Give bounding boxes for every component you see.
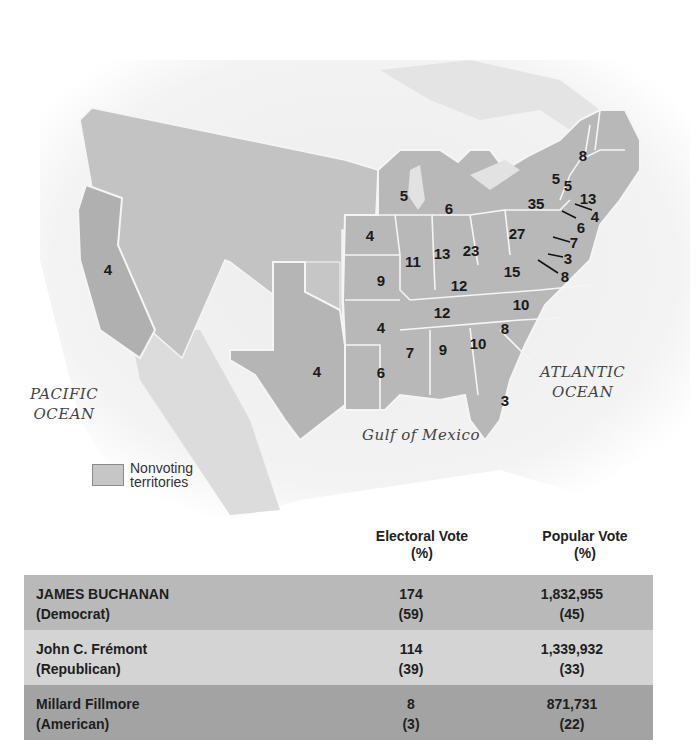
popular-vote-cell: 1,339,932 (33) — [512, 639, 632, 679]
svg-text:9: 9 — [377, 272, 385, 289]
svg-text:8: 8 — [501, 320, 509, 337]
svg-text:27: 27 — [509, 225, 526, 242]
svg-text:5: 5 — [400, 187, 408, 204]
svg-text:35: 35 — [528, 195, 545, 212]
svg-text:11: 11 — [405, 253, 421, 270]
svg-text:5: 5 — [552, 170, 560, 187]
electoral-vote-cell: 114 (39) — [351, 639, 471, 679]
svg-text:4: 4 — [377, 319, 386, 336]
candidate-name: John C. Frémont (Republican) — [36, 639, 147, 679]
svg-text:6: 6 — [445, 200, 453, 217]
electoral-vote-cell: 174 (59) — [351, 584, 471, 624]
candidate-name: Millard Fillmore (American) — [36, 694, 139, 734]
popular-vote-cell: 871,731 (22) — [512, 694, 632, 734]
svg-text:12: 12 — [451, 277, 468, 294]
map-legend: Nonvoting territories — [92, 461, 193, 489]
svg-text:10: 10 — [470, 335, 487, 352]
svg-text:12: 12 — [434, 304, 451, 321]
popular-vote-cell: 1,832,955 (45) — [512, 584, 632, 624]
table-row-fillmore: Millard Fillmore (American) 8 (3) 871,73… — [24, 685, 653, 740]
atlantic-ocean-label: ATLANTIC OCEAN — [540, 362, 625, 402]
svg-text:15: 15 — [504, 263, 521, 280]
svg-text:6: 6 — [377, 364, 385, 381]
svg-text:7: 7 — [406, 344, 414, 361]
electoral-vote-cell: 8 (3) — [351, 694, 471, 734]
svg-text:7: 7 — [570, 234, 578, 251]
nonvoting-swatch — [92, 464, 124, 486]
svg-text:8: 8 — [561, 268, 569, 285]
svg-text:5: 5 — [564, 177, 572, 194]
table-row-buchanan: JAMES BUCHANAN (Democrat) 174 (59) 1,832… — [24, 575, 653, 630]
svg-text:9: 9 — [439, 341, 447, 358]
svg-text:23: 23 — [463, 242, 480, 259]
svg-text:8: 8 — [579, 147, 587, 164]
map-graphic: 4 4 4 9 4 6 5 6 11 13 23 12 12 7 9 10 8 … — [0, 0, 698, 520]
svg-text:13: 13 — [580, 190, 597, 207]
table-row-fremont: John C. Frémont (Republican) 114 (39) 1,… — [24, 630, 653, 685]
svg-text:3: 3 — [564, 250, 572, 267]
svg-text:3: 3 — [501, 392, 509, 409]
legend-label: Nonvoting territories — [130, 461, 193, 489]
svg-text:13: 13 — [434, 245, 451, 262]
popular-vote-header: Popular Vote (%) — [520, 528, 650, 562]
electoral-vote-header: Electoral Vote (%) — [357, 528, 487, 562]
pacific-ocean-label: PACIFIC OCEAN — [30, 384, 98, 424]
svg-text:4: 4 — [313, 363, 322, 380]
svg-text:4: 4 — [104, 261, 113, 278]
svg-text:10: 10 — [513, 296, 530, 313]
candidate-name: JAMES BUCHANAN (Democrat) — [36, 584, 169, 624]
election-map: 4 4 4 9 4 6 5 6 11 13 23 12 12 7 9 10 8 … — [0, 0, 698, 520]
gulf-of-mexico-label: Gulf of Mexico — [362, 425, 480, 445]
svg-text:4: 4 — [591, 208, 600, 225]
svg-text:4: 4 — [366, 227, 375, 244]
